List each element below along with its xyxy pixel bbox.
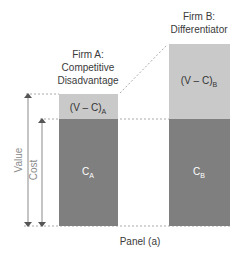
firm-a-title-line1: Firm A: [72,49,104,60]
firm-b-cost-text: C [193,166,200,177]
firm-a-title-line2: Competitive [62,62,115,73]
cost-axis-label: Cost [28,159,39,180]
firm-b-cost-subscript: B [200,172,205,179]
panel-label: Panel (a) [120,236,161,247]
firm-b-title-line2: Differentiator [170,24,228,35]
firm-a-cost-subscript: A [89,172,94,179]
firm-a-margin-subscript: A [102,108,107,115]
firm-b-margin-text: (V – C) [181,75,213,86]
firm-a-margin-text: (V – C) [70,102,102,113]
connector-line-a-to-b [120,45,167,93]
value-axis-label: Value [13,147,24,172]
firm-a-title-line3: Disadvantage [57,75,119,86]
value-cost-diagram: Value Cost Firm A: Competitive Disadvant… [0,0,242,262]
firm-b-margin-subscript: B [213,81,218,88]
firm-a-cost-text: C [82,166,89,177]
firm-b-title-line1: Firm B: [183,11,215,22]
